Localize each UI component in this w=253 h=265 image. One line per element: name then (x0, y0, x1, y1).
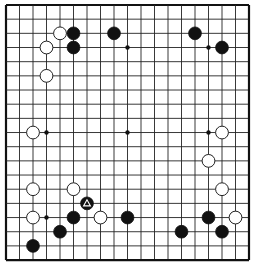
black-stone[interactable] (67, 211, 80, 224)
star-point-icon (125, 130, 129, 134)
white-stone[interactable] (94, 211, 107, 224)
white-stone[interactable] (27, 126, 40, 139)
black-stone[interactable] (67, 41, 80, 54)
black-stone[interactable] (189, 27, 202, 40)
white-stone[interactable] (229, 211, 242, 224)
black-stone[interactable] (216, 41, 229, 54)
white-stone[interactable] (40, 69, 53, 82)
go-board-canvas[interactable] (0, 0, 253, 265)
white-stone[interactable] (216, 126, 229, 139)
white-stone[interactable] (67, 183, 80, 196)
black-stone[interactable] (54, 225, 67, 238)
white-stone[interactable] (40, 41, 53, 54)
star-point-icon (125, 45, 129, 49)
go-board[interactable] (0, 0, 253, 265)
stones-layer (27, 27, 242, 252)
star-point-icon (44, 215, 48, 219)
black-stone[interactable] (67, 27, 80, 40)
white-stone[interactable] (27, 211, 40, 224)
white-stone[interactable] (54, 27, 67, 40)
star-point-icon (206, 130, 210, 134)
black-stone[interactable] (108, 27, 121, 40)
black-stone[interactable] (27, 239, 40, 252)
white-stone[interactable] (27, 183, 40, 196)
black-stone[interactable] (121, 211, 134, 224)
black-stone[interactable] (216, 225, 229, 238)
star-point-icon (44, 130, 48, 134)
white-stone[interactable] (216, 183, 229, 196)
black-stone[interactable] (175, 225, 188, 238)
star-point-icon (206, 45, 210, 49)
black-stone[interactable] (202, 211, 215, 224)
white-stone[interactable] (202, 154, 215, 167)
black-stone[interactable] (81, 197, 94, 210)
